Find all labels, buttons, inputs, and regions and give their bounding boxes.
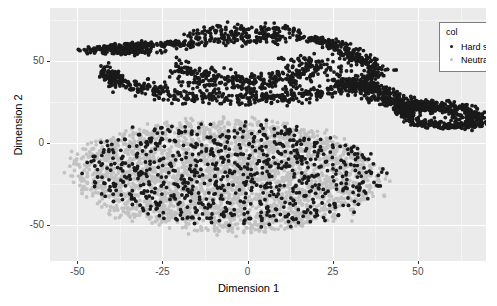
data-point — [224, 206, 228, 210]
data-point — [429, 112, 433, 116]
data-point — [265, 206, 269, 210]
data-point — [334, 172, 338, 176]
data-point — [240, 192, 244, 196]
data-point — [362, 166, 366, 170]
data-point — [345, 69, 349, 73]
data-point — [170, 102, 174, 106]
data-point — [295, 157, 299, 161]
data-point — [298, 179, 302, 183]
data-point — [211, 139, 215, 143]
data-point — [249, 168, 253, 172]
data-point — [259, 37, 263, 41]
data-point — [244, 192, 248, 196]
data-point — [92, 171, 96, 175]
data-point — [80, 192, 84, 196]
data-point — [110, 143, 114, 147]
data-point — [261, 166, 265, 170]
data-point — [417, 104, 421, 108]
data-point — [152, 160, 156, 164]
data-point — [223, 146, 227, 150]
data-point — [179, 213, 183, 217]
data-point — [134, 173, 138, 177]
data-point — [264, 145, 268, 149]
data-point — [117, 70, 121, 74]
data-point — [350, 219, 354, 223]
data-point — [165, 138, 169, 142]
data-point — [373, 65, 377, 69]
data-point — [69, 156, 73, 160]
data-point — [288, 164, 292, 168]
data-point — [176, 77, 180, 81]
data-point — [310, 38, 314, 42]
data-point — [329, 40, 333, 44]
data-point — [295, 86, 299, 90]
data-point — [288, 36, 292, 40]
data-point — [151, 177, 155, 181]
data-point — [347, 77, 351, 81]
data-point — [346, 93, 350, 97]
data-point — [182, 178, 186, 182]
data-point — [318, 209, 322, 213]
data-point — [359, 174, 363, 178]
data-point — [321, 195, 325, 199]
data-point — [331, 163, 335, 167]
data-point — [198, 174, 202, 178]
data-point — [100, 192, 104, 196]
data-point — [205, 197, 209, 201]
data-point — [296, 160, 300, 164]
data-point — [234, 234, 238, 238]
data-point — [225, 140, 229, 144]
data-point — [192, 29, 196, 33]
data-point — [281, 143, 285, 147]
data-point — [303, 221, 307, 225]
data-point — [158, 214, 162, 218]
data-point — [350, 149, 354, 153]
data-point — [356, 175, 360, 179]
data-point — [81, 177, 85, 181]
data-point — [273, 134, 277, 138]
data-point — [218, 120, 222, 124]
data-point — [272, 214, 276, 218]
data-point — [364, 191, 368, 195]
data-point — [221, 160, 225, 164]
data-point — [385, 171, 389, 175]
data-point — [309, 93, 313, 97]
data-point — [236, 227, 240, 231]
legend-item-neutral-region[interactable]: Neutral region — [445, 53, 486, 66]
data-point — [272, 97, 276, 101]
data-point — [136, 165, 140, 169]
data-point — [396, 100, 400, 104]
data-point — [357, 189, 361, 193]
data-point — [195, 42, 199, 46]
data-point — [234, 191, 238, 195]
data-point — [133, 54, 137, 58]
data-point — [138, 203, 142, 207]
legend: col Hard sweep Neutral region — [439, 22, 486, 72]
data-point — [164, 49, 168, 53]
data-point — [179, 131, 183, 135]
data-point — [357, 193, 361, 197]
data-point — [285, 176, 289, 180]
data-point — [290, 91, 294, 95]
data-point — [160, 126, 164, 130]
data-point — [263, 177, 267, 181]
data-point — [294, 80, 298, 84]
data-point — [274, 26, 278, 30]
data-point — [364, 81, 368, 85]
data-point — [241, 152, 245, 156]
data-point — [303, 175, 307, 179]
data-point — [186, 173, 190, 177]
data-point — [197, 191, 201, 195]
data-point — [411, 100, 415, 104]
data-point — [140, 39, 144, 43]
data-point — [177, 167, 181, 171]
data-point — [185, 151, 189, 155]
data-point — [264, 100, 268, 104]
data-point — [388, 179, 392, 183]
data-point — [103, 202, 107, 206]
legend-item-hard-sweep[interactable]: Hard sweep — [445, 40, 486, 53]
data-point — [201, 74, 205, 78]
data-point — [219, 149, 223, 153]
data-point — [195, 160, 199, 164]
data-point — [287, 220, 291, 224]
